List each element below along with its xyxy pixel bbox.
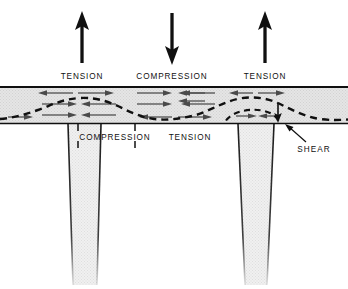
label-compression-bottom: COMPRESSION — [79, 133, 150, 142]
tension-arrow-left — [75, 11, 89, 63]
label-shear: SHEAR — [297, 145, 331, 154]
stress-diagram: TENSION COMPRESSION TENSION COMPRESSION … — [0, 0, 348, 289]
label-tension-right: TENSION — [244, 72, 287, 81]
diagram-canvas: TENSION COMPRESSION TENSION COMPRESSION … — [0, 0, 348, 289]
tension-arrow-right — [258, 11, 272, 63]
label-tension-bottom: TENSION — [169, 133, 212, 142]
compression-arrow-center — [165, 13, 179, 65]
label-compression-center: COMPRESSION — [136, 72, 207, 81]
top-load-arrows — [75, 11, 272, 65]
column-right — [238, 124, 274, 285]
label-tension-left: TENSION — [61, 72, 104, 81]
column-left — [68, 124, 101, 285]
shear-callout-leader — [285, 124, 306, 142]
